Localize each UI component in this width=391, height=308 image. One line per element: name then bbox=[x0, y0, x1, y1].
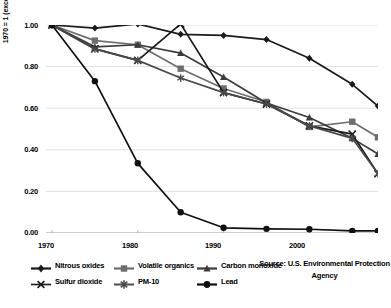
legend-item-pm-10[interactable]: PM-10 bbox=[113, 274, 159, 289]
data-point-circle bbox=[306, 226, 312, 232]
data-point-circle bbox=[92, 78, 98, 84]
legend-item-lead[interactable]: Lead bbox=[196, 274, 238, 289]
x-tick-label-1980: 1980 bbox=[110, 241, 150, 250]
legend-label-volatile-organics: Volatile organics bbox=[138, 261, 194, 270]
plot-area bbox=[46, 25, 378, 233]
series-volatile-organics bbox=[49, 25, 378, 141]
chart-container: 1970 = 1 (except PM-10) 1.00 0.80 0.60 0… bbox=[0, 0, 391, 308]
x-tick-label-2000: 2000 bbox=[277, 241, 317, 250]
legend-label-pm-10: PM-10 bbox=[138, 277, 159, 286]
series-nitrous-oxides bbox=[49, 25, 378, 110]
legend-swatch-diamond-icon bbox=[30, 260, 52, 271]
legend-item-nitrous-oxides[interactable]: Nitrous oxides bbox=[30, 258, 104, 273]
data-point-square bbox=[349, 119, 355, 125]
y-tick-label-0.40: 0.40 bbox=[8, 145, 38, 154]
x-tick-label-1990: 1990 bbox=[193, 241, 233, 250]
x-tick-label-1970: 1970 bbox=[26, 241, 66, 250]
source-note: Source: U.S. Environmental Protection Ag… bbox=[258, 258, 391, 281]
legend-label-nitrous-oxides: Nitrous oxides bbox=[55, 261, 104, 270]
y-tick-label-0.00: 0.00 bbox=[8, 228, 38, 237]
data-point-circle bbox=[177, 209, 183, 215]
legend-swatch-circle-icon bbox=[196, 276, 218, 287]
data-point-circle bbox=[135, 160, 141, 166]
legend-item-sulfur-dioxide[interactable]: Sulfur dioxide bbox=[30, 274, 102, 289]
data-point-square bbox=[177, 65, 183, 71]
legend-swatch-x-icon bbox=[30, 276, 52, 287]
y-tick-label-0.60: 0.60 bbox=[8, 104, 38, 113]
chart-legend: Nitrous oxides Volatile organics bbox=[0, 258, 391, 308]
legend-swatch-asterisk-icon bbox=[113, 276, 135, 287]
data-point-circle bbox=[220, 225, 226, 231]
data-point-diamond bbox=[220, 32, 226, 39]
data-point-diamond bbox=[177, 31, 183, 38]
data-point-circle bbox=[263, 226, 269, 232]
data-point-circle bbox=[375, 228, 378, 233]
data-point-triangle bbox=[220, 73, 227, 80]
legend-label-lead: Lead bbox=[221, 277, 238, 286]
data-point-diamond bbox=[263, 36, 269, 43]
data-point-square bbox=[92, 37, 98, 43]
y-tick-label-0.80: 0.80 bbox=[8, 62, 38, 71]
legend-swatch-triangle-icon bbox=[196, 260, 218, 271]
data-point-circle bbox=[349, 228, 355, 233]
legend-swatch-square-icon bbox=[113, 260, 135, 271]
series-carbon-monoxide bbox=[48, 25, 378, 157]
series-sulfur-dioxide bbox=[48, 25, 378, 177]
y-tick-label-1.00: 1.00 bbox=[8, 21, 38, 30]
y-axis-title: 1970 = 1 (except PM-10) bbox=[2, 0, 9, 60]
plot-svg bbox=[46, 25, 378, 233]
data-point-square bbox=[375, 134, 378, 140]
series-pm-10 bbox=[49, 25, 378, 178]
data-point-diamond bbox=[92, 25, 98, 32]
data-point-diamond bbox=[306, 55, 312, 62]
legend-item-volatile-organics[interactable]: Volatile organics bbox=[113, 258, 194, 273]
legend-label-sulfur-dioxide: Sulfur dioxide bbox=[55, 277, 102, 286]
y-tick-label-0.20: 0.20 bbox=[8, 187, 38, 196]
